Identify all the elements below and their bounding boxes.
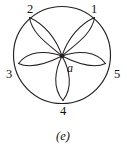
petal-a-3-arc-top [19, 52, 63, 63]
petal-a-2-arc-left [30, 18, 63, 57]
vertex-label-4: 4 [60, 104, 67, 118]
vertex-label-2: 2 [27, 2, 33, 16]
vertex-a-dot [60, 54, 65, 59]
petal-a-4-arc-left [56, 56, 63, 101]
petal-a-2-arc-right [30, 18, 63, 57]
figure-caption: (e) [56, 129, 70, 143]
vertex-label-3: 3 [6, 67, 12, 81]
graph-diagram: 1 2 3 4 5 a (e) [0, 0, 127, 146]
vertex-label-a: a [67, 61, 73, 75]
petal-a-1-arc-right [62, 18, 95, 57]
petal-a-1-arc-left [62, 18, 95, 57]
vertex-label-1: 1 [91, 2, 97, 16]
figure-container: 1 2 3 4 5 a (e) [0, 0, 127, 146]
vertex-label-5: 5 [114, 67, 120, 81]
petal-edge-a-1 [62, 18, 95, 57]
petal-edge-a-3 [19, 52, 63, 65]
petal-edge-a-2 [30, 18, 63, 57]
